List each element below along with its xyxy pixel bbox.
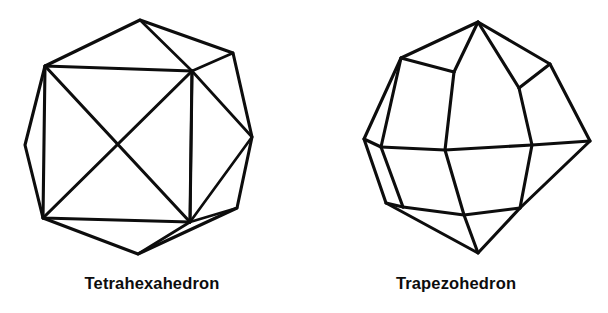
tetrahexahedron-caption: Tetrahexahedron: [0, 272, 304, 294]
tetrahexahedron-inner-diagonals: [43, 66, 192, 222]
trapezohedron-drawing: [304, 0, 608, 272]
trapezohedron-equator-band: [364, 72, 590, 150]
tetrahexahedron-drawing: [0, 0, 304, 272]
trapezohedron-outer-hull: [364, 22, 590, 253]
trapezohedron-upper-edges: [381, 22, 550, 147]
crystal-forms-plate: Tetrahexahedron: [0, 0, 608, 313]
trapezohedron-caption: Trapezohedron: [304, 272, 608, 294]
trapezohedron-lower-edges: [381, 145, 532, 253]
trapezohedron-figure: Trapezohedron: [304, 0, 608, 313]
tetrahexahedron-figure: Tetrahexahedron: [0, 0, 304, 313]
